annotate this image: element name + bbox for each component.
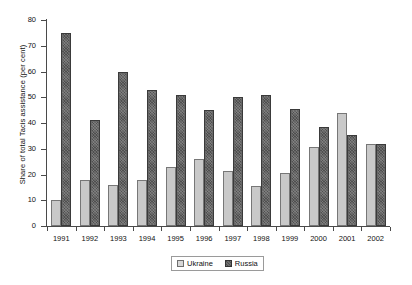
x-tick-label: 2002 <box>356 234 396 243</box>
bar-russia-1998 <box>261 95 271 226</box>
bar-ukraine-1997 <box>223 171 233 226</box>
x-axis-line <box>46 226 390 227</box>
x-tick-mark <box>104 227 105 231</box>
bar-russia-2002 <box>376 144 386 226</box>
bar-russia-1999 <box>290 109 300 226</box>
bar-russia-2001 <box>347 135 357 226</box>
y-tick-label: 60 <box>10 68 36 76</box>
x-tick-mark <box>390 227 391 231</box>
y-tick-label: 50 <box>10 93 36 101</box>
bar-russia-1995 <box>176 95 186 226</box>
legend-item-ukraine: Ukraine <box>177 259 213 268</box>
y-tick-label: 30 <box>10 145 36 153</box>
y-tick-label: 0 <box>10 222 36 230</box>
bar-ukraine-1991 <box>51 200 61 226</box>
legend-swatch-ukraine-icon <box>177 260 184 267</box>
x-tick-mark <box>276 227 277 231</box>
bar-russia-1993 <box>118 72 128 227</box>
legend-item-russia: Russia <box>225 259 258 268</box>
bar-ukraine-2000 <box>309 147 319 226</box>
bar-russia-1994 <box>147 90 157 226</box>
x-tick-mark <box>133 227 134 231</box>
y-tick-label: 40 <box>10 119 36 127</box>
y-tick-label: 10 <box>10 196 36 204</box>
bar-ukraine-2002 <box>366 144 376 226</box>
y-tick-label: 20 <box>10 171 36 179</box>
bar-ukraine-1996 <box>194 159 204 226</box>
plot-area <box>47 20 390 226</box>
x-tick-mark <box>190 227 191 231</box>
bar-ukraine-1993 <box>108 185 118 226</box>
x-tick-mark <box>247 227 248 231</box>
x-tick-mark <box>161 227 162 231</box>
x-tick-mark <box>76 227 77 231</box>
bar-ukraine-1998 <box>251 186 261 226</box>
bar-ukraine-1995 <box>166 167 176 226</box>
bar-russia-1991 <box>61 33 71 226</box>
bar-ukraine-2001 <box>337 113 347 226</box>
bar-ukraine-1994 <box>137 180 147 226</box>
bar-ukraine-1999 <box>280 173 290 226</box>
bar-ukraine-1992 <box>80 180 90 226</box>
legend-swatch-russia-icon <box>225 260 232 267</box>
x-tick-mark <box>219 227 220 231</box>
bar-russia-1992 <box>90 120 100 226</box>
x-tick-mark <box>333 227 334 231</box>
legend-label: Ukraine <box>187 259 213 268</box>
bar-chart: Share of total Tacis assistance (per cen… <box>0 0 412 285</box>
legend-label: Russia <box>235 259 258 268</box>
y-tick-label: 70 <box>10 42 36 50</box>
x-tick-mark <box>304 227 305 231</box>
bar-russia-1997 <box>233 97 243 226</box>
x-tick-mark <box>361 227 362 231</box>
x-tick-mark <box>47 227 48 231</box>
chart-legend: UkraineRussia <box>171 256 264 271</box>
bar-russia-1996 <box>204 110 214 226</box>
bar-russia-2000 <box>319 127 329 226</box>
y-tick-label: 80 <box>10 16 36 24</box>
